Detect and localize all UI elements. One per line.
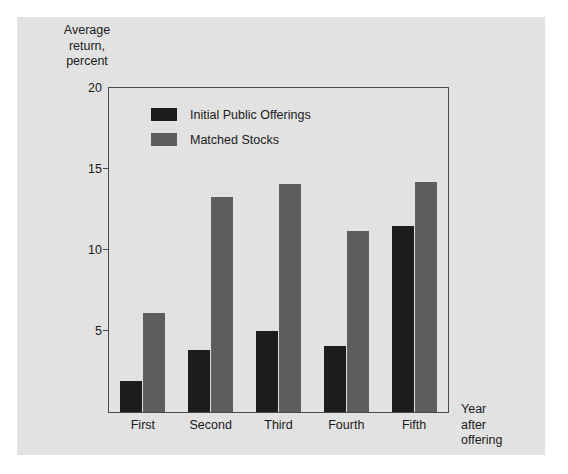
legend-item-ipo: Initial Public Offerings — [151, 102, 311, 127]
bar-second-ipo — [188, 350, 210, 412]
bar-third-matched — [279, 184, 301, 412]
bar-fourth-ipo — [324, 346, 346, 412]
x-tick-label-second: Second — [189, 418, 231, 432]
x-tick-label-fourth: Fourth — [328, 418, 364, 432]
legend-swatch-match — [151, 133, 177, 146]
y-axis-title: Average return, percent — [45, 23, 129, 70]
bar-third-ipo — [256, 331, 278, 412]
bar-second-matched — [211, 197, 233, 412]
x-tick-label-third: Third — [264, 418, 292, 432]
legend-label: Matched Stocks — [190, 133, 279, 147]
y-tick-label: 5 — [95, 324, 109, 338]
bar-fifth-matched — [415, 182, 437, 412]
x-tick-label-first: First — [131, 418, 155, 432]
x-tick-label-fifth: Fifth — [402, 418, 426, 432]
y-tick-label: 10 — [88, 243, 109, 257]
y-tick-label: 15 — [88, 162, 109, 176]
bar-fourth-matched — [347, 231, 369, 412]
plot-area: 2015105 FirstSecondThirdFourthFifth Init… — [108, 87, 449, 413]
bar-fifth-ipo — [392, 226, 414, 412]
y-tick-label: 20 — [88, 81, 109, 95]
legend-swatch-ipo — [151, 108, 177, 121]
chart-figure: Average return, percent 2015105 FirstSec… — [17, 17, 545, 455]
x-axis-title: Year after offering — [461, 402, 502, 449]
legend-label: Initial Public Offerings — [190, 108, 311, 122]
chart-legend: Initial Public OfferingsMatched Stocks — [151, 102, 311, 152]
legend-item-match: Matched Stocks — [151, 127, 311, 152]
bar-first-matched — [143, 313, 165, 412]
bar-first-ipo — [120, 381, 142, 412]
